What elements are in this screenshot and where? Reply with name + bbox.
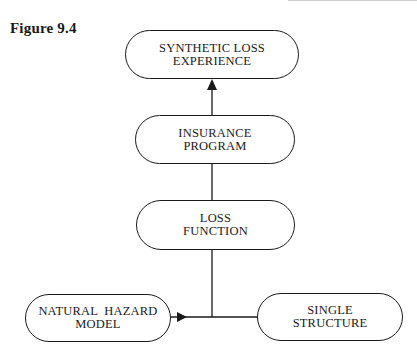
node-insurance-program: INSURANCE PROGRAM	[135, 115, 295, 164]
node-natural-hazard-model: NATURAL HAZARD MODEL	[25, 294, 171, 342]
node-label-line: SYNTHETIC LOSS	[159, 42, 265, 55]
node-single-structure: SINGLE STRUCTURE	[257, 293, 403, 341]
node-label-line: INSURANCE	[178, 127, 251, 140]
node-synthetic-loss-experience: SYNTHETIC LOSS EXPERIENCE	[125, 30, 299, 79]
node-label-line: STRUCTURE	[293, 317, 368, 330]
arrowhead-right-icon	[177, 312, 187, 322]
node-label-line: MODEL	[38, 318, 157, 331]
node-loss-function: LOSS FUNCTION	[136, 200, 295, 250]
node-label-line: PROGRAM	[178, 140, 251, 153]
node-label-line: EXPERIENCE	[159, 55, 265, 68]
arrowhead-up-icon	[207, 79, 217, 90]
node-label-line: FUNCTION	[183, 225, 248, 238]
